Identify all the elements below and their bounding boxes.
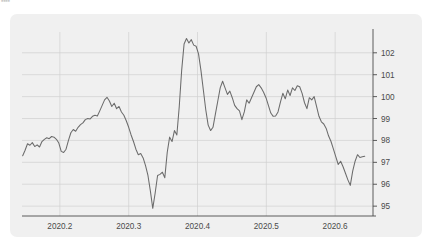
y-axis-tick-labels: 9596979899100101102 bbox=[381, 49, 395, 211]
svg-text:96: 96 bbox=[381, 180, 391, 189]
svg-text:98: 98 bbox=[381, 136, 391, 145]
figure-root: ▪▪▪▪ 9596979899100101102 2020.22020.3202… bbox=[0, 0, 432, 248]
line-chart[interactable]: 9596979899100101102 2020.22020.32020.420… bbox=[10, 14, 422, 237]
svg-text:97: 97 bbox=[381, 158, 391, 167]
corner-artifact-text: ▪▪▪▪ bbox=[1, 0, 10, 4]
svg-text:2020.3: 2020.3 bbox=[116, 222, 141, 231]
chart-card: 9596979899100101102 2020.22020.32020.420… bbox=[10, 14, 422, 237]
svg-text:99: 99 bbox=[381, 115, 391, 124]
svg-text:100: 100 bbox=[381, 93, 395, 102]
series-line-index bbox=[23, 39, 365, 209]
svg-text:2020.6: 2020.6 bbox=[323, 222, 348, 231]
x-axis-tick-labels: 2020.22020.32020.42020.52020.6 bbox=[47, 222, 348, 231]
svg-text:2020.5: 2020.5 bbox=[254, 222, 279, 231]
vertical-gridlines bbox=[60, 32, 335, 216]
svg-text:101: 101 bbox=[381, 71, 395, 80]
svg-text:95: 95 bbox=[381, 202, 391, 211]
svg-text:102: 102 bbox=[381, 49, 395, 58]
y-axis-ticks bbox=[373, 53, 377, 206]
svg-text:2020.2: 2020.2 bbox=[47, 222, 72, 231]
svg-text:2020.4: 2020.4 bbox=[185, 222, 210, 231]
